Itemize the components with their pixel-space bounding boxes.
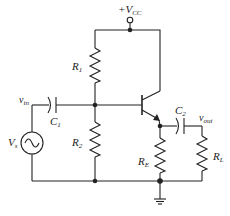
npn-transistor-icon [142, 91, 160, 126]
c2-label: C2 [175, 104, 186, 118]
capacitor-c1-icon [48, 97, 56, 113]
ac-source-icon [21, 105, 43, 181]
vcc-label: +VCC [118, 3, 142, 17]
resistor-r1-icon [90, 30, 100, 105]
rl-label: RL [212, 150, 224, 164]
c1-label: C1 [50, 115, 61, 129]
vin-label: vin [19, 94, 29, 107]
ground-icon [154, 181, 166, 204]
r1-label: R1 [71, 60, 82, 74]
capacitor-c2-icon [176, 118, 184, 134]
resistor-rl-icon [197, 126, 207, 181]
ground-node-dot [93, 179, 98, 184]
re-label: RE [137, 155, 150, 169]
resistor-re-icon [155, 126, 165, 181]
resistor-r2-icon [90, 105, 100, 181]
r2-label: R2 [71, 136, 83, 150]
top-rail-wire [95, 30, 160, 91]
circuit-diagram: +VCC R1 C1 vin Vs R2 [0, 0, 230, 216]
vs-label: Vs [8, 136, 18, 150]
vout-label: vout [199, 112, 213, 125]
